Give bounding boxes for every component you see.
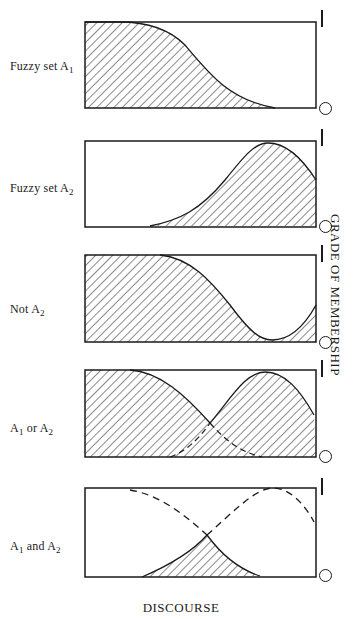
panel-fuzzy-set-a2: Fuzzy set A2 xyxy=(0,120,362,245)
axis-one-marker xyxy=(321,360,323,377)
panel-label: A1 or A2 xyxy=(10,421,53,437)
x-axis-label: DISCOURSE xyxy=(0,600,362,616)
y-axis-label: GRADE OF MEMBERSHIP xyxy=(327,214,343,376)
panel-label: Fuzzy set A2 xyxy=(10,181,74,197)
panel-label: Not A2 xyxy=(10,302,45,318)
axis-one-marker xyxy=(321,10,323,27)
panel-a1-and-a2: A1 and A2 xyxy=(0,480,362,605)
axis-zero-marker xyxy=(319,102,332,115)
panel-not-a2: Not A2 xyxy=(0,240,362,365)
axis-one-marker xyxy=(321,245,323,262)
panel-a1-or-a2: A1 or A2 xyxy=(0,360,362,485)
not-a2-plot xyxy=(0,240,362,365)
panel-fuzzy-set-a1: Fuzzy set A1 xyxy=(0,0,362,125)
axis-zero-marker xyxy=(319,450,332,463)
panel-label: Fuzzy set A1 xyxy=(10,59,74,75)
axis-one-marker xyxy=(321,478,323,495)
panel-label: A1 and A2 xyxy=(10,539,61,555)
axis-zero-marker xyxy=(319,569,332,582)
axis-one-marker xyxy=(321,129,323,146)
a1-or-a2-plot xyxy=(0,360,362,485)
